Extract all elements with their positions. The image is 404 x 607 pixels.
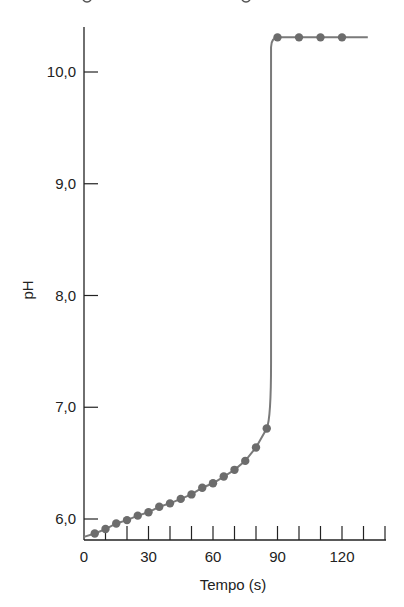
data-point (273, 33, 281, 41)
y-axis-ticks: 6,07,08,09,010,0 (47, 63, 98, 527)
axes (84, 27, 386, 540)
data-point (338, 33, 346, 41)
x-tick-label: 90 (269, 548, 286, 565)
x-tick-label: 60 (205, 548, 222, 565)
data-point (177, 495, 185, 503)
data-point (91, 529, 99, 537)
y-tick-label: 10,0 (47, 63, 76, 80)
data-point (230, 466, 238, 474)
data-point (252, 443, 260, 451)
data-point (101, 525, 109, 533)
data-point (144, 508, 152, 516)
x-tick-label: 0 (80, 548, 88, 565)
data-point (187, 490, 195, 498)
data-point (209, 479, 217, 487)
data-point (198, 484, 206, 492)
data-point (220, 472, 228, 480)
x-axis-ticks: 0306090120 (80, 526, 385, 565)
data-point (263, 424, 271, 432)
y-tick-label: 9,0 (55, 175, 76, 192)
x-tick-label: 120 (329, 548, 354, 565)
y-tick-label: 8,0 (55, 287, 76, 304)
x-tick-label: 30 (140, 548, 157, 565)
data-point (295, 33, 303, 41)
data-point (166, 499, 174, 507)
data-point (123, 516, 131, 524)
data-point (112, 519, 120, 527)
data-point (134, 511, 142, 519)
ph-curve-line (84, 37, 368, 537)
y-axis-title: pH (19, 280, 36, 299)
data-point (241, 457, 249, 465)
y-tick-label: 6,0 (55, 510, 76, 527)
data-point (155, 503, 163, 511)
cropped-header-fragment (83, 0, 250, 2)
y-tick-label: 7,0 (55, 398, 76, 415)
data-point (316, 33, 324, 41)
titration-chart: 6,07,08,09,010,0 0306090120 Tempo (s) pH (0, 0, 404, 607)
x-axis-title: Tempo (s) (200, 576, 267, 593)
data-markers (91, 33, 347, 538)
